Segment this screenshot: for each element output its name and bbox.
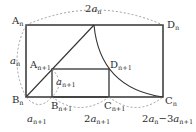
measure-bottom-1: an+1 [27, 113, 47, 126]
measure-left: an [10, 55, 20, 68]
geometry-diagram: An Bn Cn Dn An+1 Bn+1 Cn+1 Dn+1 2an an a… [0, 0, 196, 132]
measure-bottom-3: 2an−3an+1 [142, 113, 193, 126]
bottom-dashed-arc-1 [26, 97, 52, 105]
label-B-n: Bn [12, 94, 24, 107]
measure-inner-height: an+1 [56, 76, 76, 89]
label-A-n1: An+1 [29, 59, 51, 72]
measure-bottom-2: 2an+1 [84, 113, 110, 126]
outer-rectangle [26, 25, 163, 97]
label-A-n: An [11, 15, 23, 28]
label-C-n1: Cn+1 [104, 100, 125, 113]
quarter-arc [94, 25, 163, 97]
label-D-n: Dn [167, 19, 179, 32]
label-B-n1: Bn+1 [51, 100, 72, 113]
measure-top: 2an [85, 3, 102, 16]
label-D-n1: Dn+1 [110, 59, 132, 72]
label-C-n: Cn [165, 95, 177, 108]
